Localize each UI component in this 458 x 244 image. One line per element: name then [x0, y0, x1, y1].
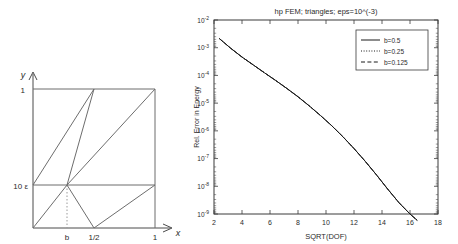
edge-half-to-right-node	[94, 185, 155, 228]
legend-label-1: b=0.25	[384, 48, 404, 55]
y-tick-label: 10-2	[197, 15, 209, 24]
y-tick-label: 10-8	[197, 181, 209, 190]
x-tick-label: 8	[296, 219, 300, 226]
y-tick-label: 10-4	[197, 70, 209, 79]
x-tick-label: 2	[212, 219, 216, 226]
mesh-square-outline	[33, 89, 155, 228]
y-tick-label-1: 1	[21, 86, 26, 95]
x-axis-label: x	[175, 228, 181, 238]
plot-legend: b=0.5b=0.25b=0.125	[356, 30, 428, 70]
edge-origin-to-node	[33, 185, 67, 228]
x-tick-label: 6	[268, 219, 272, 226]
mesh-interface-lines	[33, 185, 155, 228]
y-axis-title: Rel. Error in Energy	[193, 86, 201, 148]
x-tick-label: 12	[350, 219, 358, 226]
plot-title: hp FEM; triangles; eps=10^(-3)	[275, 7, 378, 16]
convergence-plot-svg: hp FEM; triangles; eps=10^(-3) SQRT(DOF)…	[190, 0, 458, 244]
x-tick-label-1: 1	[153, 233, 158, 242]
x-tick-label: 10	[322, 219, 330, 226]
y-axis-label: y	[20, 70, 26, 80]
x-tick-label: 14	[378, 219, 386, 226]
convergence-plot-panel: hp FEM; triangles; eps=10^(-3) SQRT(DOF)…	[190, 0, 458, 244]
mesh-diagram-panel: 1 10 ε b 1/2 1 y x	[0, 0, 190, 244]
legend-label-2: b=0.125	[384, 59, 408, 66]
mesh-triangle-edges	[33, 89, 155, 228]
mesh-axis-names: y x	[20, 70, 181, 238]
x-tick-label: 4	[240, 219, 244, 226]
y-tick-label: 10-6	[197, 126, 209, 135]
mesh-axes	[29, 72, 172, 232]
mesh-diagram-svg: 1 10 ε b 1/2 1 y x	[0, 0, 190, 244]
y-tick-label: 10-9	[197, 209, 209, 218]
figure-canvas: 1 10 ε b 1/2 1 y x hp FEM; triangles; ep…	[0, 0, 458, 244]
legend-label-0: b=0.5	[384, 37, 401, 44]
y-tick-label: 10-7	[197, 153, 209, 162]
y-tick-label: 10-5	[197, 98, 209, 107]
x-tick-label: 18	[434, 219, 442, 226]
x-tick-label-half: 1/2	[88, 233, 100, 242]
x-tick-label-b: b	[65, 233, 70, 242]
y-tick-label-10eps: 10 ε	[13, 182, 28, 191]
edge-left-to-top-mid	[33, 89, 94, 185]
edge-node-to-half	[67, 185, 94, 228]
x-tick-label: 16	[406, 219, 414, 226]
x-axis-title: SQRT(DOF)	[305, 232, 347, 241]
y-tick-label: 10-3	[197, 43, 209, 52]
